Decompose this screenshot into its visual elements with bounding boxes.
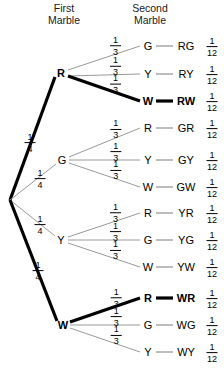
outcome-prob-YR-numerator: 1 xyxy=(209,203,214,213)
outcome-prob-YR: 112 xyxy=(207,203,218,225)
branch-Y-to-YW xyxy=(68,243,140,267)
prob-W-WY-denominator: 3 xyxy=(114,336,119,346)
prob-root-G-numerator: 1 xyxy=(37,168,42,178)
outcome-prob-WR-numerator: 1 xyxy=(209,288,214,298)
prob-G-GY-numerator: 1 xyxy=(113,141,118,151)
branch-G-to-GW xyxy=(69,163,140,187)
header-second-line1: Second xyxy=(132,2,168,14)
outcome-prob-WY-numerator: 1 xyxy=(209,342,214,352)
branch-G-to-GR xyxy=(69,128,140,157)
branch-W-to-WY xyxy=(70,328,140,352)
outcome-prob-RG-denominator: 12 xyxy=(207,48,217,58)
outcome-WY: WY xyxy=(177,346,195,358)
outcome-prob-RW: 112 xyxy=(207,91,218,113)
outcome-prob-GW-denominator: 12 xyxy=(207,189,217,199)
outcome-RW: RW xyxy=(177,95,196,107)
outcome-GW: GW xyxy=(177,181,197,193)
prob-R-RW-numerator: 1 xyxy=(113,73,118,83)
prob-root-G-denominator: 4 xyxy=(37,180,42,190)
prob-Y-YR-numerator: 1 xyxy=(113,202,118,212)
outcome-prob-GR-numerator: 1 xyxy=(209,118,214,128)
node-level2-YR: R xyxy=(144,207,152,219)
prob-Y-YW-denominator: 3 xyxy=(113,251,118,261)
prob-R-RY-numerator: 1 xyxy=(113,55,118,65)
outcome-prob-YW: 112 xyxy=(207,257,218,279)
prob-G-GR-denominator: 3 xyxy=(113,130,118,140)
node-level2-WY: Y xyxy=(144,346,152,358)
outcome-prob-GW-numerator: 1 xyxy=(209,177,214,187)
outcome-GR: GR xyxy=(178,122,195,134)
prob-W-WG-numerator: 1 xyxy=(114,306,119,316)
node-level2-RW: W xyxy=(143,95,154,107)
prob-W-WY-numerator: 1 xyxy=(114,324,119,334)
node-level2-WG: G xyxy=(144,319,153,331)
outcome-prob-WY: 112 xyxy=(207,342,218,364)
prob-root-G: 14 xyxy=(35,168,46,190)
node-level2-WR: R xyxy=(144,292,152,304)
header-first-line2: Marble xyxy=(48,14,80,26)
node-level1-W: W xyxy=(58,319,69,331)
node-level2-RG: G xyxy=(144,40,153,52)
outcome-prob-RW-numerator: 1 xyxy=(209,91,214,101)
prob-Y-YG-numerator: 1 xyxy=(113,221,118,231)
prob-root-Y-numerator: 1 xyxy=(37,214,42,224)
outcome-prob-GY: 112 xyxy=(207,150,218,172)
prob-root-W-denominator: 4 xyxy=(35,272,40,282)
branch-W-to-WR xyxy=(70,298,140,322)
outcome-prob-WG-denominator: 12 xyxy=(207,327,217,337)
outcome-prob-WY-denominator: 12 xyxy=(207,354,217,364)
prob-root-R-denominator: 4 xyxy=(27,144,32,154)
header-first-line1: First xyxy=(54,2,74,14)
outcome-WG: WG xyxy=(177,319,196,331)
node-level1-R: R xyxy=(57,67,65,79)
outcome-prob-RG: 112 xyxy=(207,36,218,58)
prob-Y-YW-numerator: 1 xyxy=(113,239,118,249)
outcome-prob-YR-denominator: 12 xyxy=(207,215,217,225)
outcome-YR: YR xyxy=(178,207,193,219)
prob-W-WR-numerator: 1 xyxy=(114,287,119,297)
outcome-prob-RW-denominator: 12 xyxy=(207,103,217,113)
header-second-line2: Marble xyxy=(134,14,166,26)
outcome-prob-YW-numerator: 1 xyxy=(209,257,214,267)
tree-svg: FirstMarbleSecondMarble14R13GRG11213YRY1… xyxy=(0,0,224,375)
branch-R-to-RG xyxy=(68,46,140,70)
outcome-prob-RG-numerator: 1 xyxy=(209,36,214,46)
branches-layer xyxy=(10,46,173,352)
node-level2-RY: Y xyxy=(144,68,152,80)
node-level2-GY: Y xyxy=(144,154,152,166)
outcome-prob-WG: 112 xyxy=(207,315,218,337)
outcome-prob-YW-denominator: 12 xyxy=(207,269,217,279)
probability-tree-diagram: FirstMarbleSecondMarble14R13GRG11213YRY1… xyxy=(0,0,224,375)
node-level2-GR: R xyxy=(144,122,152,134)
node-level2-GW: W xyxy=(143,181,154,193)
node-level2-YG: G xyxy=(144,234,153,246)
branch-R-to-RW xyxy=(68,76,140,101)
outcome-YW: YW xyxy=(177,261,195,273)
prob-root-Y-denominator: 4 xyxy=(37,226,42,236)
outcome-RG: RG xyxy=(178,40,195,52)
outcome-prob-RY: 112 xyxy=(207,64,218,86)
outcome-YG: YG xyxy=(178,234,194,246)
outcome-prob-YG: 112 xyxy=(207,230,218,252)
prob-G-GR-numerator: 1 xyxy=(113,118,118,128)
outcome-prob-YG-denominator: 12 xyxy=(207,242,217,252)
prob-root-Y: 14 xyxy=(35,214,46,236)
outcome-prob-GY-numerator: 1 xyxy=(209,150,214,160)
prob-G-GW-numerator: 1 xyxy=(113,159,118,169)
prob-root-R-numerator: 1 xyxy=(27,132,32,142)
prob-R-RG-numerator: 1 xyxy=(113,35,118,45)
node-level2-YW: W xyxy=(143,261,154,273)
prob-G-GW-denominator: 3 xyxy=(113,171,118,181)
outcome-prob-YG-numerator: 1 xyxy=(209,230,214,240)
outcome-prob-GW: 112 xyxy=(207,177,218,199)
outcome-WR: WR xyxy=(177,292,195,304)
branch-root-to-W xyxy=(10,200,57,321)
outcome-prob-WG-numerator: 1 xyxy=(209,315,214,325)
outcome-RY: RY xyxy=(178,68,194,80)
node-level1-G: G xyxy=(58,154,67,166)
prob-G-GR: 13 xyxy=(110,118,121,140)
outcome-prob-GY-denominator: 12 xyxy=(207,162,217,172)
outcome-GY: GY xyxy=(178,154,195,166)
prob-root-W-numerator: 1 xyxy=(35,260,40,270)
node-level1-Y: Y xyxy=(57,234,65,246)
